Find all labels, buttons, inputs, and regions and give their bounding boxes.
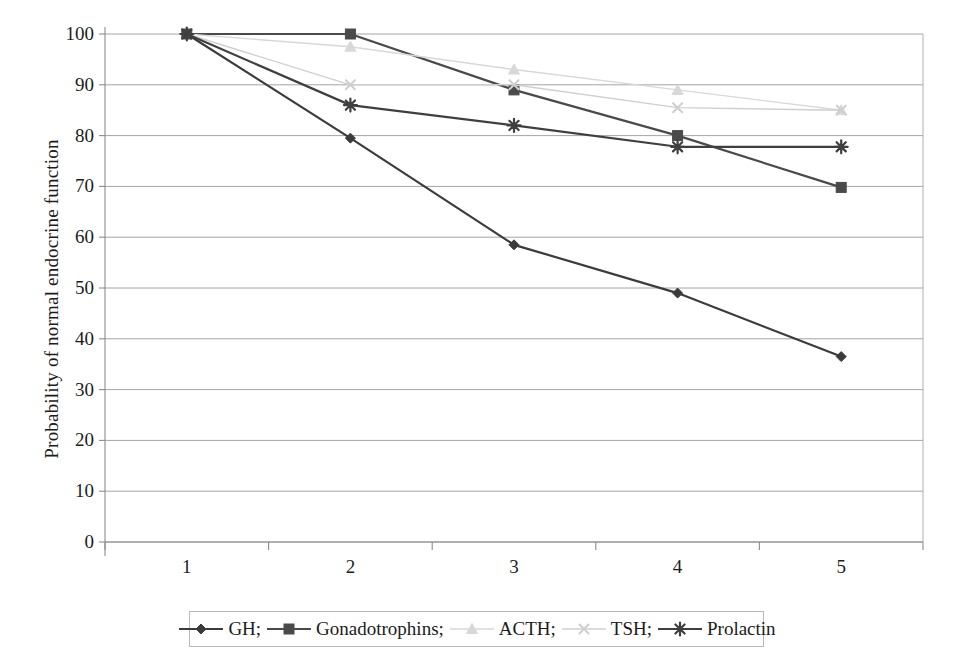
- legend-marker-triangle: [446, 618, 498, 640]
- diamond-icon: [836, 352, 846, 362]
- data-point-marker-asterisk: [180, 28, 193, 41]
- data-point-marker-diamond: [196, 624, 206, 634]
- legend-item[interactable]: Prolactin: [654, 618, 778, 640]
- data-point-marker-square: [673, 131, 683, 141]
- legend-marker-asterisk: [654, 618, 706, 640]
- legend-marker-square: [263, 618, 315, 640]
- asterisk-icon: [508, 119, 521, 132]
- data-point-marker-asterisk: [344, 99, 357, 112]
- legend-item[interactable]: ACTH;: [446, 618, 558, 640]
- legend-label: ACTH;: [498, 618, 558, 640]
- legend-item[interactable]: Gonadotrophins;: [263, 618, 446, 640]
- square-icon: [345, 29, 355, 39]
- legend-label: Gonadotrophins;: [315, 618, 446, 640]
- series-line: [187, 34, 841, 357]
- data-point-marker-square: [509, 85, 519, 95]
- legend: GH;Gonadotrophins;ACTH;TSH;Prolactin: [189, 611, 764, 647]
- asterisk-icon: [344, 99, 357, 112]
- data-point-marker-diamond: [673, 288, 683, 298]
- data-point-marker-asterisk: [835, 140, 848, 153]
- legend-marker-x: [558, 618, 610, 640]
- diamond-icon: [673, 288, 683, 298]
- square-icon: [284, 624, 294, 634]
- chart-container: Probability of normal endocrine function…: [0, 0, 955, 672]
- legend-marker-diamond: [175, 618, 227, 640]
- square-icon: [509, 85, 519, 95]
- asterisk-icon: [835, 140, 848, 153]
- data-point-marker-asterisk: [508, 119, 521, 132]
- data-point-marker-square: [345, 29, 355, 39]
- square-icon: [836, 182, 846, 192]
- asterisk-icon: [674, 623, 687, 636]
- legend-label: Prolactin: [706, 618, 778, 640]
- series-gh: [182, 29, 846, 362]
- square-icon: [673, 131, 683, 141]
- legend-item[interactable]: GH;: [175, 618, 263, 640]
- data-point-marker-asterisk: [674, 623, 687, 636]
- data-point-marker-diamond: [836, 352, 846, 362]
- diamond-icon: [196, 624, 206, 634]
- series-gonadotrophins: [182, 29, 846, 192]
- asterisk-icon: [180, 28, 193, 41]
- data-point-marker-square: [284, 624, 294, 634]
- legend-item[interactable]: TSH;: [558, 618, 654, 640]
- legend-label: GH;: [227, 618, 263, 640]
- series-acth: [187, 34, 847, 115]
- plot-area: [0, 0, 955, 672]
- series-line: [187, 34, 841, 187]
- asterisk-icon: [671, 140, 684, 153]
- data-point-marker-asterisk: [671, 140, 684, 153]
- data-point-marker-square: [836, 182, 846, 192]
- legend-label: TSH;: [610, 618, 654, 640]
